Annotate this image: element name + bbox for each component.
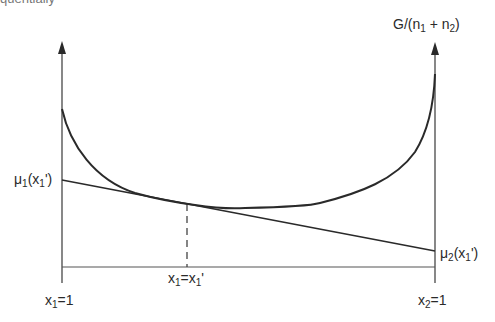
tangent-line [62, 180, 435, 251]
gibbs-energy-curve [62, 74, 435, 208]
right-intercept-label: μ2(x1') [440, 246, 478, 263]
left-axis-arrow-icon [58, 41, 66, 54]
left-intercept-label: μ1(x1') [14, 172, 52, 189]
y-axis-label: G/(n1 + n2) [393, 17, 460, 34]
right-axis-label: x2=1 [418, 293, 447, 310]
right-axis-arrow-icon [431, 42, 439, 55]
gibbs-energy-diagram [0, 0, 495, 322]
left-axis-label: x1=1 [45, 293, 74, 310]
tangent-point-label: x1=x1' [168, 271, 204, 288]
